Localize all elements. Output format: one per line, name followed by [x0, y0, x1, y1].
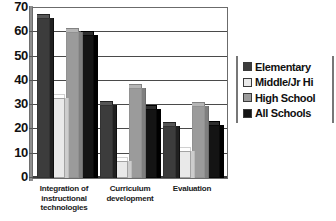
bar — [100, 105, 113, 178]
bar-side-face — [94, 35, 98, 178]
x-axis-category-label: Curriculumdevelopment — [98, 184, 162, 203]
y-axis-tick-label: 60 — [2, 26, 28, 36]
y-axis-tickmark — [29, 104, 33, 105]
legend-swatch-icon — [243, 78, 252, 87]
legend-item[interactable]: Middle/Jr Hi — [243, 75, 313, 90]
x-axis-label-line: instructional — [30, 194, 98, 204]
bar-chart: 706050403020100 Integration ofinstructio… — [0, 0, 336, 221]
bar-top-face — [66, 28, 79, 32]
legend-item[interactable]: All Schools — [243, 106, 311, 121]
y-axis-tickmark — [29, 80, 33, 81]
y-axis-tickmark — [29, 56, 33, 57]
legend-label: Elementary — [255, 61, 311, 73]
y-axis-tick-label: 30 — [2, 99, 28, 109]
plot-area — [32, 7, 228, 179]
bar-side-face — [220, 125, 224, 178]
bar-group — [37, 8, 97, 178]
bar-side-face — [176, 126, 180, 178]
x-axis-category-label: Integration ofinstructionaltechnologies — [30, 184, 98, 213]
y-axis-tick-labels: 706050403020100 — [0, 0, 28, 221]
y-axis-tick-label: 0 — [2, 172, 28, 182]
y-axis-tick-label: 70 — [2, 2, 28, 12]
x-axis-category-labels: Integration ofinstructionaltechnologiesC… — [30, 181, 230, 221]
y-axis-tick-label: 40 — [2, 75, 28, 85]
bar-top-face — [129, 84, 142, 88]
legend-label: Middle/Jr Hi — [255, 76, 313, 88]
bar-side-face — [157, 109, 161, 178]
bar-top-face — [100, 101, 113, 105]
y-axis-tick-label: 10 — [2, 148, 28, 158]
y-axis-tick-label: 50 — [2, 51, 28, 61]
bar-top-face — [37, 14, 50, 18]
legend-label: High School — [255, 92, 315, 104]
bar-front-face — [163, 126, 176, 178]
y-axis-tickmark — [29, 153, 33, 154]
bar-side-face — [113, 105, 117, 178]
chart-legend: ElementaryMiddle/Jr HiHigh SchoolAll Sch… — [236, 56, 334, 123]
bar — [37, 18, 50, 178]
bar-group — [100, 8, 160, 178]
y-axis-tickmark — [29, 31, 33, 32]
y-axis-tick-label: 20 — [2, 123, 28, 133]
legend-item[interactable]: Elementary — [243, 59, 311, 74]
legend-label: All Schools — [255, 107, 311, 119]
y-axis-tickmark — [29, 177, 33, 178]
legend-swatch-icon — [243, 109, 252, 118]
x-axis-label-line: Curriculum — [98, 184, 162, 194]
bar-side-face — [79, 32, 83, 178]
legend-swatch-icon — [243, 62, 252, 71]
plot-inner — [33, 8, 227, 178]
bar-group — [163, 8, 223, 178]
legend-item[interactable]: High School — [243, 90, 315, 105]
bar-side-face — [205, 106, 209, 178]
x-axis-label-line: Evaluation — [162, 184, 222, 194]
x-axis-label-line: technologies — [30, 203, 98, 213]
bar-side-face — [50, 18, 54, 178]
x-axis-label-line: Integration of — [30, 184, 98, 194]
bar — [163, 126, 176, 178]
bar-top-face — [163, 122, 176, 126]
bar-front-face — [37, 18, 50, 178]
x-axis-category-label: Evaluation — [162, 184, 222, 194]
bar-front-face — [100, 105, 113, 178]
x-axis-label-line: development — [98, 194, 162, 204]
legend-swatch-icon — [243, 93, 252, 102]
bar-side-face — [142, 88, 146, 178]
bar-side-face — [128, 161, 132, 178]
bar-side-face — [191, 151, 195, 178]
bar-top-face — [192, 102, 205, 106]
y-axis-tickmark — [29, 128, 33, 129]
bar-side-face — [65, 98, 69, 178]
